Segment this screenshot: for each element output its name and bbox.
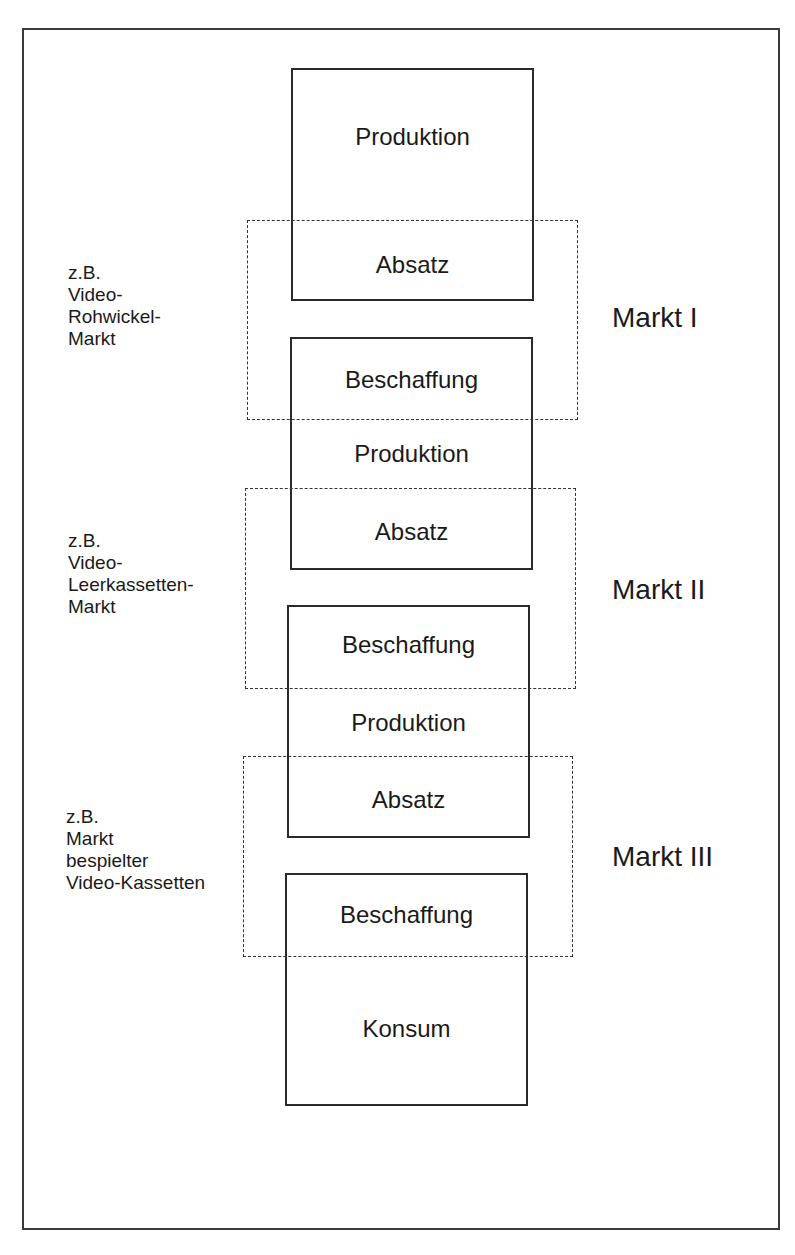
market-2-example-line: z.B. bbox=[68, 530, 194, 552]
market-3-example-line: Video-Kassetten bbox=[66, 872, 205, 894]
market-1-label: Markt I bbox=[612, 302, 698, 334]
market-2-example-line: Markt bbox=[68, 596, 194, 618]
market-1-example-line: Markt bbox=[68, 328, 161, 350]
stage-2-absatz-label: Absatz bbox=[290, 518, 533, 546]
market-1-example-line: z.B. bbox=[68, 262, 161, 284]
market-2-example-line: Leerkassetten- bbox=[68, 574, 194, 596]
market-2-label: Markt II bbox=[612, 574, 705, 606]
market-3-label: Markt III bbox=[612, 841, 713, 873]
stage-1-absatz-label: Absatz bbox=[291, 251, 534, 279]
market-3-example-line: bespielter bbox=[66, 850, 205, 872]
market-1-example-line: Video- bbox=[68, 284, 161, 306]
stage-4-beschaffung-label: Beschaffung bbox=[285, 901, 528, 929]
stage-4-konsum-label: Konsum bbox=[285, 1015, 528, 1043]
market-3-example-line: Markt bbox=[66, 828, 205, 850]
market-2-example-line: Video- bbox=[68, 552, 194, 574]
stage-1-produktion-label: Produktion bbox=[291, 123, 534, 151]
market-1-example-line: Rohwickel- bbox=[68, 306, 161, 328]
stage-3-produktion-label: Produktion bbox=[287, 709, 530, 737]
stage-3-absatz-label: Absatz bbox=[287, 786, 530, 814]
market-3-example: z.B. Markt bespielter Video-Kassetten bbox=[66, 806, 205, 894]
market-3-example-line: z.B. bbox=[66, 806, 205, 828]
stage-3-beschaffung-label: Beschaffung bbox=[287, 631, 530, 659]
market-2-example: z.B. Video- Leerkassetten- Markt bbox=[68, 530, 194, 618]
stage-2-beschaffung-label: Beschaffung bbox=[290, 366, 533, 394]
stage-2-produktion-label: Produktion bbox=[290, 440, 533, 468]
market-1-example: z.B. Video- Rohwickel- Markt bbox=[68, 262, 161, 350]
